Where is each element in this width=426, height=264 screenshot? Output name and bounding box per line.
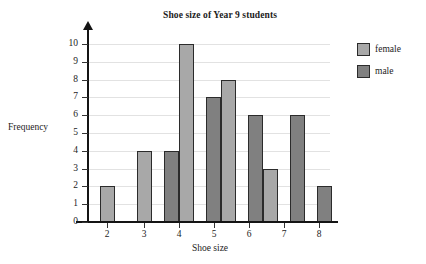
gridline-9 bbox=[88, 62, 330, 63]
x-tick-label-3: 3 bbox=[134, 229, 154, 239]
y-tick-4 bbox=[82, 151, 88, 152]
x-axis-title: Shoe size bbox=[150, 243, 270, 253]
y-tick-5 bbox=[82, 133, 88, 134]
bar-female-size-6 bbox=[263, 169, 278, 222]
x-tick-label-5: 5 bbox=[204, 229, 224, 239]
y-tick-7 bbox=[82, 97, 88, 98]
plot-area bbox=[88, 44, 330, 222]
y-tick-0 bbox=[82, 222, 88, 223]
x-tick-label-6: 6 bbox=[239, 229, 259, 239]
y-axis-title: Frequency bbox=[8, 122, 48, 132]
bar-female-size-3 bbox=[137, 151, 152, 222]
y-tick-8 bbox=[82, 80, 88, 81]
bar-male-size-6 bbox=[248, 115, 263, 222]
x-tick-2 bbox=[107, 223, 108, 228]
y-tick-label-3: 3 bbox=[54, 163, 78, 173]
y-tick-6 bbox=[82, 115, 88, 116]
legend-label-female: female bbox=[375, 44, 401, 54]
y-tick-label-5: 5 bbox=[54, 127, 78, 137]
y-tick-3 bbox=[82, 169, 88, 170]
y-tick-2 bbox=[82, 186, 88, 187]
y-tick-label-1: 1 bbox=[54, 198, 78, 208]
y-tick-label-6: 6 bbox=[54, 109, 78, 119]
x-tick-7 bbox=[284, 223, 285, 228]
legend-swatch-female bbox=[357, 43, 370, 56]
y-tick-10 bbox=[82, 44, 88, 45]
gridline-10 bbox=[88, 44, 330, 45]
y-tick-label-7: 7 bbox=[54, 91, 78, 101]
legend-item-female: female bbox=[357, 40, 425, 58]
x-tick-6 bbox=[249, 223, 250, 228]
y-axis-line bbox=[87, 28, 89, 223]
y-tick-label-0: 0 bbox=[54, 216, 78, 226]
x-tick-5 bbox=[214, 223, 215, 228]
y-tick-label-8: 8 bbox=[54, 74, 78, 84]
bar-female-size-5 bbox=[221, 80, 236, 222]
bar-chart-figure: Shoe size of Year 9 students Frequency S… bbox=[0, 0, 426, 264]
bar-male-size-7 bbox=[290, 115, 305, 222]
bar-female-size-2 bbox=[100, 186, 115, 222]
x-tick-4 bbox=[179, 223, 180, 228]
x-tick-8 bbox=[319, 223, 320, 228]
bar-female-size-4 bbox=[179, 44, 194, 222]
bar-male-size-8 bbox=[317, 186, 332, 222]
chart-title: Shoe size of Year 9 students bbox=[120, 10, 320, 20]
chart-legend: femalemale bbox=[357, 40, 425, 84]
x-axis-line bbox=[76, 221, 338, 223]
gridline-8 bbox=[88, 80, 330, 81]
x-tick-label-7: 7 bbox=[274, 229, 294, 239]
y-tick-1 bbox=[82, 204, 88, 205]
legend-swatch-male bbox=[357, 65, 370, 78]
x-tick-label-8: 8 bbox=[309, 229, 329, 239]
y-tick-label-4: 4 bbox=[54, 145, 78, 155]
y-tick-label-9: 9 bbox=[54, 56, 78, 66]
bar-male-size-5 bbox=[206, 97, 221, 222]
x-tick-label-4: 4 bbox=[169, 229, 189, 239]
x-tick-label-2: 2 bbox=[97, 229, 117, 239]
legend-label-male: male bbox=[375, 66, 393, 76]
bar-male-size-4 bbox=[164, 151, 179, 222]
y-tick-9 bbox=[82, 62, 88, 63]
y-tick-label-10: 10 bbox=[54, 38, 78, 48]
y-tick-label-2: 2 bbox=[54, 180, 78, 190]
legend-item-male: male bbox=[357, 62, 425, 80]
x-tick-3 bbox=[144, 223, 145, 228]
